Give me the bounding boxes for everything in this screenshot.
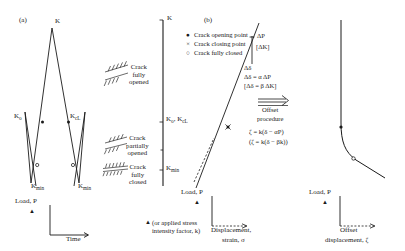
zone-fully-opened-line-2: fully	[129, 71, 149, 79]
waveform-right-leg	[52, 28, 85, 183]
zone-fully-closed-line-2: fully	[129, 171, 146, 179]
panel-a-time-axis-label: Time	[66, 236, 81, 243]
marker-closing-point-b	[225, 124, 230, 129]
central-k-axis	[160, 20, 164, 186]
legend-label-crack-fully-closed: Crack fully closed	[194, 49, 242, 56]
k-axis-min-tick-label: Kmin	[166, 165, 179, 174]
zone-label-fully-opened: Crack fully opened	[129, 63, 149, 86]
panel-b-x-axis-label-line-2: strain, σ	[222, 237, 245, 244]
footnote-line-1: (or applied stress	[152, 219, 200, 227]
crack-pictogram-fully-closed	[103, 162, 128, 176]
k-open-label: Ko	[14, 113, 22, 122]
footnote-marker: ▲	[145, 219, 151, 225]
panel-c-main-curve	[341, 20, 385, 178]
legend: ● Crack opening point × Crack closing po…	[185, 31, 248, 58]
zone-label-partially-opened: Crack partially opened	[126, 134, 149, 157]
equation-alpha: Δδ = α ΔP	[244, 73, 271, 81]
crack-pictogram-partially-opened	[104, 134, 127, 154]
zone-fully-closed-line-3: closed	[129, 178, 146, 186]
delta-p-label: ΔP	[257, 32, 265, 40]
panel-b-x-axis-label-line-1: Displacement,	[211, 227, 251, 234]
panel-c-x-axis-label-line-1: Offset	[340, 227, 357, 234]
legend-label-crack-closing-point: Crack closing point	[194, 40, 246, 47]
waveform-left-leg	[25, 28, 52, 183]
k-min-subscript-right: min	[83, 185, 91, 191]
k-axis-open-close-tick-label: Ko, KcL	[166, 116, 188, 125]
time-axis-lines	[50, 205, 88, 235]
zone-fully-opened-line-3: opened	[129, 78, 149, 86]
panel-c-curve	[339, 20, 385, 178]
legend-item-crack-fully-closed: ○ Crack fully closed	[185, 49, 248, 56]
panel-b-dashed-branch	[194, 138, 214, 182]
panel-c-load-axis-label: Load, P	[309, 189, 331, 196]
k-close-label: KcL	[70, 113, 81, 122]
k-min-subscript-left: min	[36, 185, 44, 191]
panel-a-load-axis-marker: ▲	[29, 208, 35, 214]
marker-fully-closed-right-a	[71, 163, 74, 166]
legend-item-crack-closing-point: × Crack closing point	[185, 40, 248, 47]
legend-item-crack-opening-point: ● Crack opening point	[185, 31, 248, 38]
panel-c-x-axis-label-line-2: displacement, ζ	[325, 237, 368, 244]
panel-b-load-axis-marker: ▲	[194, 199, 200, 205]
marker-opening-point-a	[41, 121, 44, 124]
zone-fully-closed-line-1: Crack	[129, 163, 146, 171]
k-close-subscript: cL	[75, 115, 80, 121]
figure-root: (a) (b) K Ko KcL Kmin Kmin Load, P ▲ Tim…	[0, 0, 405, 251]
offset-arrow-head	[282, 96, 289, 106]
marker-opening-point-c	[339, 125, 342, 128]
zone-partially-opened-line-1: Crack	[126, 134, 149, 142]
panel-b-load-axis-label: Load, P	[181, 189, 203, 196]
delta-k-label: [ΔK]	[256, 43, 269, 51]
footnote-line-2: intensity factor, k)	[152, 227, 200, 235]
panel-c-axes	[340, 196, 375, 228]
panel-a-tag: (a)	[19, 17, 27, 24]
delta-delta-label: Δδ	[244, 64, 251, 72]
offset-procedure-label-line-2: procedure	[257, 115, 283, 123]
zone-partially-opened-line-3: opened	[126, 149, 149, 157]
panel-a-load-axis-label: Load, P	[15, 198, 37, 205]
peak-k-label: K	[55, 18, 60, 25]
equation-zeta-2: (ζ = k(δ − βk))	[249, 138, 288, 146]
marker-fully-closed-left-a	[36, 163, 39, 166]
crack-opening-point-icon: ●	[185, 31, 191, 38]
panel-b-tag: (b)	[204, 17, 212, 24]
equation-zeta-1: ζ = k(δ − αP)	[249, 128, 284, 136]
panel-a-markers	[36, 121, 75, 167]
k-open-subscript: o	[19, 115, 22, 121]
marker-fully-closed-c	[352, 157, 355, 160]
panel-b-axes	[212, 196, 247, 228]
zone-fully-opened-line-1: Crack	[129, 63, 149, 71]
legend-label-crack-opening-point: Crack opening point	[194, 31, 248, 38]
crack-closing-point-icon: ×	[185, 40, 191, 47]
k-min-label-left: Kmin	[31, 183, 44, 192]
k-min-label-right: Kmin	[78, 183, 91, 192]
k-axis-min-subscript: min	[171, 167, 179, 173]
k-axis-close-subscript: cL	[182, 118, 187, 124]
k-axis-tick-separator: , K	[174, 115, 183, 123]
footnote-text: (or applied stress intensity factor, k)	[152, 219, 200, 235]
zone-label-fully-closed: Crack fully closed	[129, 163, 146, 186]
offset-arrow-shaft	[258, 99, 286, 102]
panel-a-axes	[50, 205, 89, 237]
panel-a-waveform	[25, 28, 85, 186]
zone-partially-opened-line-2: partially	[126, 142, 149, 150]
equation-beta: [Δδ = β ΔK]	[244, 82, 276, 90]
offset-procedure-label-line-1: Offset	[262, 106, 278, 114]
crack-fully-closed-icon: ○	[185, 49, 191, 56]
k-axis-title: K	[167, 15, 172, 22]
panel-c-load-axis-marker: ▲	[322, 199, 328, 205]
crack-pictogram-fully-opened	[104, 61, 128, 86]
